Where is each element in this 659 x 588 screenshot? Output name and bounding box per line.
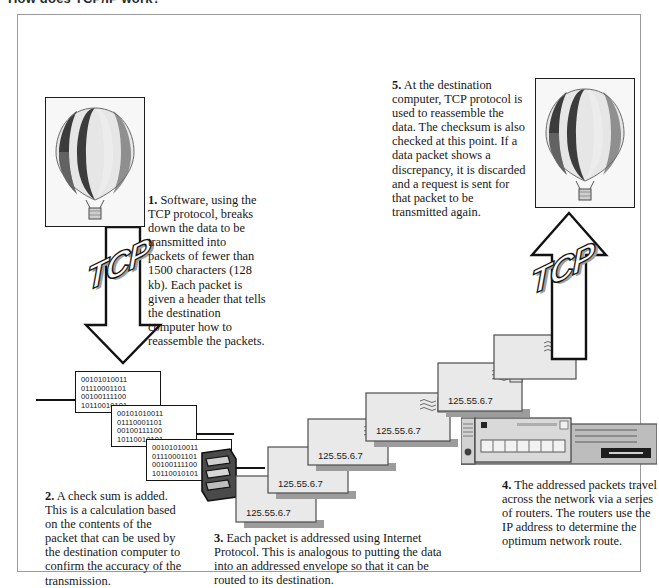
step-4-text: The addressed packets travel across the … xyxy=(502,478,657,548)
step-4-number: 4. xyxy=(502,478,511,492)
step-1-number: 1. xyxy=(148,193,157,207)
packet-connector-2 xyxy=(196,433,234,435)
step-2-number: 2. xyxy=(45,489,54,503)
router-icon xyxy=(461,410,657,476)
envelope-ip-label: 125.55.6.7 xyxy=(278,478,323,489)
step-1-text: Software, using the TCP protocol, breaks… xyxy=(148,193,266,348)
step-2-caption: 2. A check sum is added. This is a calcu… xyxy=(45,489,187,588)
step-1-caption: 1. Software, using the TCP protocol, bre… xyxy=(148,193,266,348)
envelope-ip-label: 125.55.6.7 xyxy=(376,425,421,436)
step-5-number: 5. xyxy=(392,78,401,92)
step-4-caption: 4. The addressed packets travel across t… xyxy=(502,478,658,548)
diagram-frame: TCP TCP 00101010011 01110001101 00100111… xyxy=(17,14,641,572)
balloon-icon xyxy=(536,79,634,207)
hot-air-balloon-source-image xyxy=(45,97,145,227)
checksum-envelope xyxy=(196,447,238,503)
step-3-caption: 3. Each packet is addressed using Intern… xyxy=(214,531,460,587)
envelope-ip-label: 125.55.6.7 xyxy=(246,507,291,518)
envelope-ip-label: 125.55.6.7 xyxy=(318,450,363,461)
page-heading: How does TCP/IP work? xyxy=(8,0,308,7)
step-5-caption: 5. At the destination computer, TCP prot… xyxy=(392,78,529,219)
envelope-ip-label: 125.55.6.7 xyxy=(448,395,493,406)
network-router-graphic xyxy=(461,410,657,476)
checksum-envelope-icon xyxy=(196,447,238,503)
step-3-text: Each packet is addressed using Internet … xyxy=(214,531,442,587)
step-3-number: 3. xyxy=(214,531,223,545)
tcp-arrow-up: TCP TCP xyxy=(526,211,612,361)
hot-air-balloon-destination-image xyxy=(535,78,635,208)
balloon-icon xyxy=(46,98,144,226)
tcp-up-icon: TCP TCP xyxy=(526,211,612,361)
step-5-text: At the destination computer, TCP protoco… xyxy=(392,78,525,219)
packet-connector-1 xyxy=(36,399,76,401)
step-2-text: A check sum is added. This is a calculat… xyxy=(45,489,181,588)
